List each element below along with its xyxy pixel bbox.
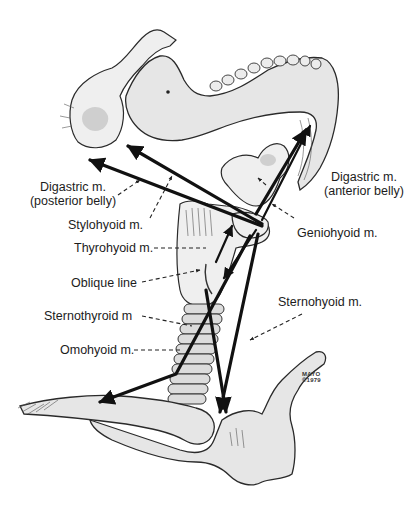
label-digastric-posterior: Digastric m. (posterior belly) <box>20 180 126 208</box>
larynx <box>177 201 269 306</box>
label-digastric-anterior: Digastric m. (anterior belly) <box>314 170 414 198</box>
label-digastric-posterior-line1: Digastric m. <box>20 180 126 194</box>
label-sternothyroid: Sternothyroid m <box>44 309 132 323</box>
label-digastric-anterior-line1: Digastric m. <box>314 170 414 184</box>
illustration-credit: MAYO ©1979 <box>302 371 321 383</box>
label-digastric-posterior-line2: (posterior belly) <box>20 194 126 208</box>
credit-line2: ©1979 <box>302 377 321 383</box>
label-geniohyoid: Geniohyoid m. <box>297 226 378 240</box>
label-omohyoid: Omohyoid m. <box>60 343 134 357</box>
label-digastric-anterior-line2: (anterior belly) <box>314 184 414 198</box>
anatomy-illustration <box>0 0 420 520</box>
label-thyrohyoid: Thyrohyoid m. <box>74 241 153 255</box>
label-sternohyoid: Sternohyoid m. <box>278 295 362 309</box>
label-oblique-line: Oblique line <box>71 276 137 290</box>
label-stylohyoid: Stylohyoid m. <box>68 218 143 232</box>
